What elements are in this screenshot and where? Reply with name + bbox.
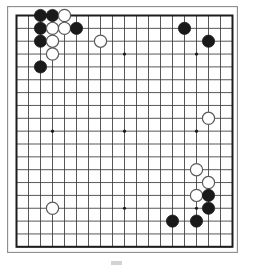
black-stone[interactable] (34, 9, 46, 21)
go-board-canvas[interactable] (7, 6, 238, 253)
caption-marker (111, 261, 122, 265)
star-point (123, 130, 126, 133)
white-stone[interactable] (46, 35, 58, 47)
star-point (195, 52, 198, 55)
star-point (195, 207, 198, 210)
black-stone[interactable] (202, 35, 214, 47)
black-stone[interactable] (34, 22, 46, 34)
white-stone[interactable] (190, 164, 202, 176)
white-stone[interactable] (58, 9, 70, 21)
black-stone[interactable] (46, 9, 58, 21)
white-stone[interactable] (58, 22, 70, 34)
go-diagram-figure (0, 0, 258, 275)
figure-caption (0, 258, 258, 268)
white-stone[interactable] (202, 112, 214, 124)
black-stone[interactable] (202, 189, 214, 201)
white-stone[interactable] (190, 189, 202, 201)
star-point (123, 207, 126, 210)
white-stone[interactable] (202, 176, 214, 188)
black-stone[interactable] (202, 202, 214, 214)
black-stone[interactable] (166, 215, 178, 227)
white-stone[interactable] (46, 22, 58, 34)
black-stone[interactable] (178, 22, 190, 34)
white-stone[interactable] (46, 202, 58, 214)
white-stone[interactable] (46, 48, 58, 60)
black-stone[interactable] (70, 22, 82, 34)
black-stone[interactable] (34, 61, 46, 73)
white-stone[interactable] (94, 35, 106, 47)
go-board[interactable] (7, 6, 238, 253)
star-point (195, 130, 198, 133)
black-stone[interactable] (190, 215, 202, 227)
star-point (123, 52, 126, 55)
black-stone[interactable] (34, 35, 46, 47)
star-point (51, 130, 54, 133)
